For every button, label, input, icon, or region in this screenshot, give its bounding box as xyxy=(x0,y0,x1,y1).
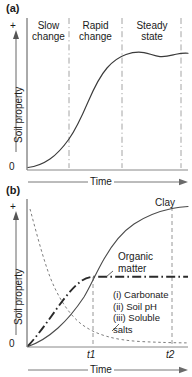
curve-label-clay: Clay xyxy=(155,197,191,208)
curve-label-organic-matter: Organic matter xyxy=(118,251,178,275)
phase-label-rapid-change: Rapid change xyxy=(71,20,120,42)
y-axis-plus-b: + xyxy=(10,201,16,212)
phase-label-steady-state: Steady state xyxy=(124,20,180,42)
y-axis-label-b: Soil property xyxy=(13,269,24,325)
legend-soluble-group: (i) Carbonate (ii) Soil pH (iii) Soluble… xyxy=(113,289,191,335)
y-axis-plus-a: + xyxy=(10,20,16,31)
y-axis-label-a: Soil property xyxy=(13,87,24,143)
x-tick-label-t1: t1 xyxy=(87,349,95,360)
panel-b: (b) + 0 Soil prope xyxy=(0,185,192,377)
x-tick-label-t2: t2 xyxy=(166,349,174,360)
y-axis-zero-b: 0 xyxy=(9,338,15,349)
y-axis-zero-a: 0 xyxy=(9,161,15,172)
x-axis-label-b: Time xyxy=(88,364,114,375)
phase-label-slow-change: Slow change xyxy=(29,20,68,42)
panel-b-plot xyxy=(0,185,192,377)
soil-property-curve-a xyxy=(28,52,188,167)
panel-a: (a) + 0 Soil property Slow change Rapid … xyxy=(0,0,192,190)
